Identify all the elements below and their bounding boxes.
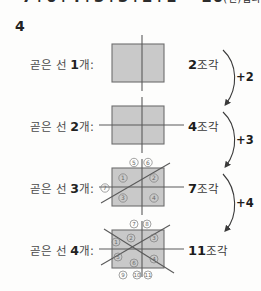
row-4-line-count: 4 bbox=[70, 243, 79, 258]
row-3-label-prefix: 곧은 선 bbox=[30, 182, 70, 196]
row-1-label-suffix: 개: bbox=[79, 58, 94, 72]
cutoff-equation-strip: 7+6+4+3+3+2+1 = 26(번)입니다. bbox=[0, 0, 261, 12]
row-2-label: 곧은 선 2개: bbox=[30, 118, 94, 134]
delta-label-2: +3 bbox=[236, 133, 254, 147]
problem-number: 4 bbox=[15, 18, 25, 34]
row-4-piece-9: 9 bbox=[121, 272, 125, 278]
row-4-piece-11: 11 bbox=[144, 272, 152, 278]
row-3-piece-6: 6 bbox=[146, 159, 150, 166]
row-3-piece-2: 2 bbox=[152, 174, 156, 181]
row-2-result-unit: 조각 bbox=[197, 120, 219, 134]
pattern-row-1: 곧은 선 1개: 2조각 bbox=[0, 34, 261, 94]
row-4-result-unit: 조각 bbox=[206, 244, 228, 258]
delta-label-1: +2 bbox=[236, 70, 254, 84]
row-3-figure: 1 2 3 4 5 6 7 bbox=[96, 159, 186, 217]
row-3-result: 7조각 bbox=[188, 180, 219, 196]
row-3-line-count: 3 bbox=[70, 181, 79, 196]
row-4-piece-10: 10 bbox=[133, 272, 141, 278]
row-2-figure bbox=[96, 97, 186, 155]
row-4-piece-5: 5 bbox=[116, 254, 120, 260]
row-3-piece-4: 4 bbox=[152, 194, 156, 201]
row-2-result-value: 4 bbox=[188, 119, 197, 134]
row-4-figure: 1 2 3 4 5 6 7 8 9 bbox=[96, 221, 186, 279]
row-4-result-value: 11 bbox=[188, 243, 206, 258]
row-2-result: 4조각 bbox=[188, 118, 219, 134]
delta-label-3: +4 bbox=[236, 196, 254, 210]
pattern-row-2: 곧은 선 2개: 4조각 bbox=[0, 96, 261, 156]
row-4-piece-1: 1 bbox=[114, 239, 118, 245]
cutoff-equation-suffix: (번)입니다. bbox=[223, 0, 261, 4]
row-4-piece-8: 8 bbox=[145, 221, 149, 227]
row-3-piece-5: 5 bbox=[132, 159, 136, 166]
row-1-figure bbox=[96, 35, 186, 93]
row-3-piece-3: 3 bbox=[121, 194, 125, 201]
row-3-piece-1: 1 bbox=[121, 174, 125, 181]
row-1-label-prefix: 곧은 선 bbox=[30, 58, 70, 72]
row-1-result-unit: 조각 bbox=[197, 58, 219, 72]
row-3-label-suffix: 개: bbox=[79, 182, 94, 196]
row-3-result-value: 7 bbox=[188, 181, 197, 196]
row-4-piece-2: 2 bbox=[129, 235, 133, 241]
pattern-row-3: 곧은 선 3개: 1 2 3 4 5 bbox=[0, 158, 261, 218]
row-4-piece-6: 6 bbox=[132, 260, 136, 266]
pattern-row-4: 곧은 선 4개: 1 2 3 4 5 bbox=[0, 220, 261, 280]
row-4-piece-3: 3 bbox=[152, 235, 156, 241]
row-1-result-value: 2 bbox=[188, 57, 197, 72]
row-3-label: 곧은 선 3개: bbox=[30, 180, 94, 196]
row-1-label: 곧은 선 1개: bbox=[30, 56, 94, 72]
row-3-piece-7: 7 bbox=[103, 184, 107, 191]
row-2-label-suffix: 개: bbox=[79, 120, 94, 134]
row-1-result: 2조각 bbox=[188, 56, 219, 72]
row-4-label: 곧은 선 4개: bbox=[30, 242, 94, 258]
row-2-line-count: 2 bbox=[70, 119, 79, 134]
cutoff-equation-text: 7+6+4+3+3+2+1 = 26 bbox=[22, 0, 223, 6]
row-4-label-suffix: 개: bbox=[79, 244, 94, 258]
worksheet-page: 7+6+4+3+3+2+1 = 26(번)입니다. 4 곧은 선 1개: 2조각… bbox=[0, 0, 261, 291]
row-2-label-prefix: 곧은 선 bbox=[30, 120, 70, 134]
row-4-piece-7: 7 bbox=[132, 221, 136, 227]
cutoff-equation: 7+6+4+3+3+2+1 = 26(번)입니다. bbox=[22, 0, 261, 6]
row-3-result-unit: 조각 bbox=[197, 182, 219, 196]
row-4-result: 11조각 bbox=[188, 242, 228, 258]
row-4-piece-4: 4 bbox=[152, 256, 156, 262]
row-1-line-count: 1 bbox=[70, 57, 79, 72]
row-4-label-prefix: 곧은 선 bbox=[30, 244, 70, 258]
